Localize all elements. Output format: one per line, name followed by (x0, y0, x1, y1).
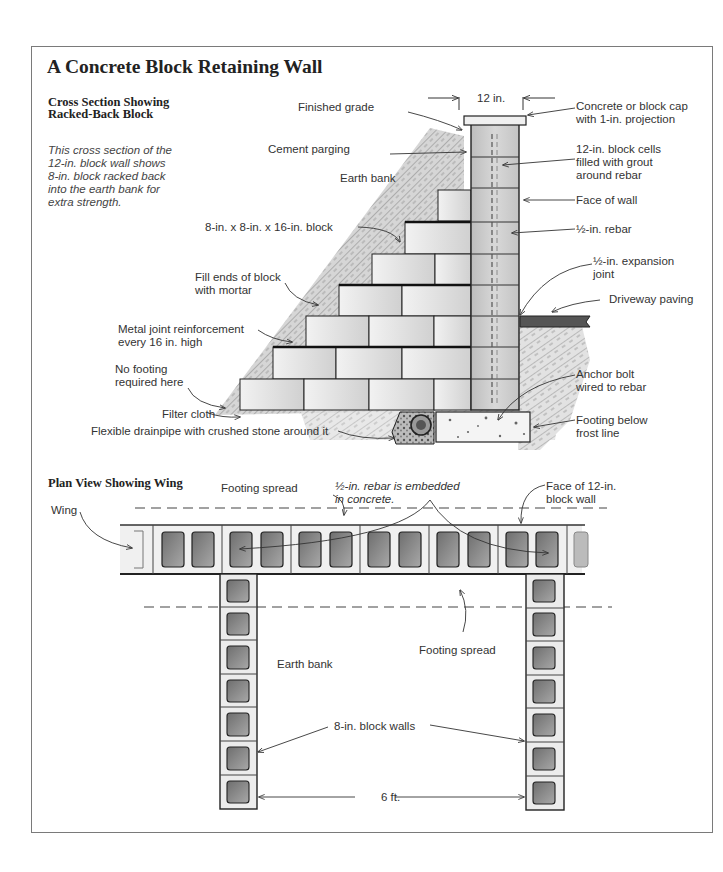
label-8in-block-walls: 8-in. block walls (334, 720, 415, 733)
label-cap-line1: Concrete or block cap (576, 100, 688, 113)
label-anchor-bolt-line1: Anchor bolt (576, 368, 646, 381)
label-fill-ends-line1: Fill ends of block (195, 271, 281, 284)
label-cement-parging: Cement parging (268, 143, 350, 156)
left-8in-wall (220, 574, 257, 809)
label-cap-line2: with 1-in. projection (576, 113, 688, 126)
label-anchor-bolt-line2: wired to rebar (576, 381, 646, 394)
label-metal-joint-line2: every 16 in. high (118, 336, 244, 349)
driveway-paving (520, 316, 590, 327)
label-no-footing-line2: required here (115, 376, 183, 389)
label-footing-spread-top: Footing spread (221, 482, 298, 495)
label-face-12in: Face of 12-in. block wall (546, 480, 616, 506)
label-fill-ends: Fill ends of block with mortar (195, 271, 281, 297)
label-earth-bank: Earth bank (340, 172, 396, 185)
right-8in-wall (526, 574, 564, 810)
label-expansion-joint: ½-in. expansion joint (593, 255, 674, 281)
label-face-12in-line2: block wall (546, 493, 616, 506)
label-footing-line1: Footing below (576, 414, 648, 427)
label-expansion-joint-line1: ½-in. expansion (593, 255, 674, 268)
label-drainpipe: Flexible drainpipe with crushed stone ar… (91, 425, 328, 438)
label-filter-cloth: Filter cloth (162, 408, 215, 421)
label-metal-joint-line1: Metal joint reinforcement (118, 323, 244, 336)
plan-view-heading: Plan View Showing Wing (48, 477, 183, 489)
label-finished-grade: Finished grade (298, 101, 374, 114)
label-block-cells-line3: around rebar (576, 169, 661, 182)
footing (436, 412, 530, 442)
label-footing-spread-bottom: Footing spread (419, 644, 496, 657)
label-rebar-note: ½-in. rebar is embedded in concrete. (335, 480, 460, 506)
label-metal-joint: Metal joint reinforcement every 16 in. h… (118, 323, 244, 349)
label-dimension-12in: 12 in. (477, 92, 505, 105)
label-footing-line2: frost line (576, 427, 648, 440)
label-earth-bank-plan: Earth bank (277, 658, 333, 671)
label-block-cells-line1: 12-in. block cells (576, 143, 661, 156)
label-block-size: 8-in. x 8-in. x 16-in. block (205, 221, 333, 234)
label-face-12in-line1: Face of 12-in. (546, 480, 616, 493)
label-face-of-wall: Face of wall (576, 194, 637, 207)
label-anchor-bolt: Anchor bolt wired to rebar (576, 368, 646, 394)
label-cap: Concrete or block cap with 1-in. project… (576, 100, 688, 126)
label-no-footing: No footing required here (115, 363, 183, 389)
plan-view-drawing (80, 485, 612, 810)
label-wing: Wing (51, 504, 77, 517)
label-footing: Footing below frost line (576, 414, 648, 440)
label-block-cells-line2: filled with grout (576, 156, 661, 169)
label-6ft-spacing: 6 ft. (381, 791, 400, 804)
label-driveway-paving: Driveway paving (609, 293, 693, 306)
label-rebar: ½-in. rebar (576, 223, 632, 236)
label-expansion-joint-line2: joint (593, 268, 674, 281)
twelve-inch-wall (471, 124, 519, 410)
label-rebar-note-line2: in concrete. (335, 493, 460, 506)
label-no-footing-line1: No footing (115, 363, 183, 376)
wall-cap (464, 116, 526, 125)
label-fill-ends-line2: with mortar (195, 284, 281, 297)
label-rebar-note-line1: ½-in. rebar is embedded (335, 480, 460, 493)
label-block-cells: 12-in. block cells filled with grout aro… (576, 143, 661, 182)
